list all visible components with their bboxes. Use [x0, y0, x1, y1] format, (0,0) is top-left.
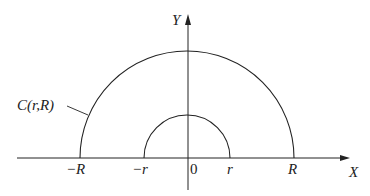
x-axis-arrow-icon — [340, 155, 350, 161]
tick-R: R — [287, 161, 297, 177]
tick-neg-R: −R — [66, 161, 85, 177]
inner-semicircle — [144, 115, 230, 158]
diagram: C(r,R) Y X −R −r 0 r R — [0, 0, 370, 196]
x-axis-label: X — [348, 164, 359, 180]
semicircle-contour-diagram: C(r,R) Y X −R −r 0 r R — [0, 0, 370, 196]
y-axis-arrow-icon — [185, 14, 191, 25]
label-leader-line — [67, 106, 88, 115]
tick-r: r — [227, 161, 233, 177]
outer-arc-label: C(r,R) — [17, 97, 54, 114]
y-axis-label: Y — [172, 12, 182, 28]
origin-label: 0 — [190, 161, 198, 177]
tick-neg-r: −r — [132, 161, 148, 177]
outer-semicircle — [80, 51, 294, 158]
